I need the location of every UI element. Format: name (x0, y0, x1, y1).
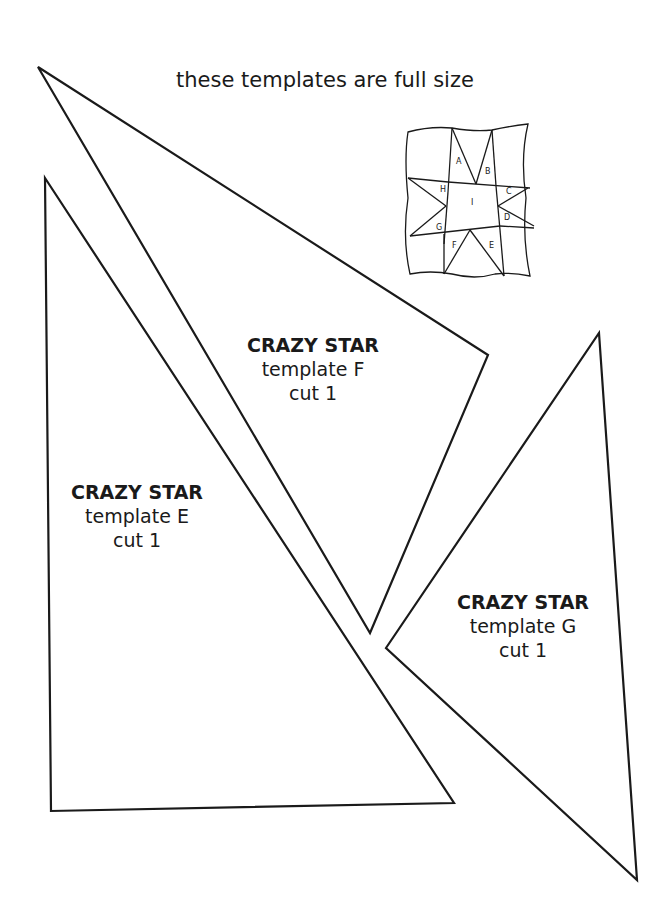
piece-d-label: D (504, 213, 510, 222)
header-text: these templates are full size (176, 68, 474, 92)
piece-b-label: B (485, 167, 491, 176)
template-g-cut: cut 1 (438, 638, 608, 662)
template-g-subtitle: template G (438, 614, 608, 638)
template-g-label: CRAZY STAR template G cut 1 (438, 590, 608, 662)
template-e-subtitle: template E (52, 504, 222, 528)
template-shapes (0, 0, 664, 909)
piece-e-label: E (489, 241, 494, 250)
template-e-title: CRAZY STAR (52, 480, 222, 504)
piece-h-label: H (440, 185, 446, 194)
template-g-title: CRAZY STAR (438, 590, 608, 614)
piece-f-label: F (452, 241, 457, 250)
page-header: these templates are full size (0, 68, 664, 92)
template-e-label: CRAZY STAR template E cut 1 (52, 480, 222, 552)
template-f-subtitle: template F (228, 357, 398, 381)
piece-i-label: I (471, 198, 473, 207)
template-f-label: CRAZY STAR template F cut 1 (228, 333, 398, 405)
quilt-block-diagram: A B C D E F G H I (400, 118, 540, 278)
template-f-cut: cut 1 (228, 381, 398, 405)
piece-c-label: C (506, 187, 512, 196)
piece-g-label: G (436, 223, 442, 232)
piece-a-label: A (456, 157, 462, 166)
template-f-title: CRAZY STAR (228, 333, 398, 357)
template-e-cut: cut 1 (52, 528, 222, 552)
